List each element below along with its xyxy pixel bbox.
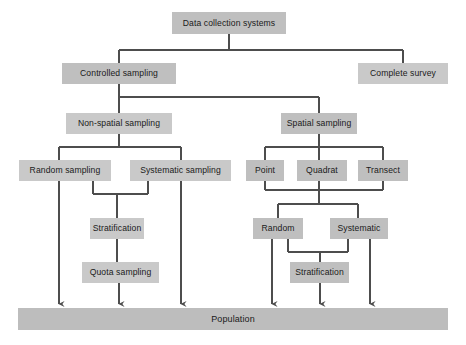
node-label: Random sampling <box>30 166 101 175</box>
node-data-collection-systems[interactable]: Data collection systems <box>172 12 286 34</box>
node-label: Complete survey <box>370 69 436 78</box>
node-label: Quadrat <box>306 166 338 175</box>
node-label: Stratification <box>93 224 142 233</box>
node-non-spatial-sampling[interactable]: Non-spatial sampling <box>66 113 172 134</box>
node-label: Quota sampling <box>90 268 152 277</box>
node-random[interactable]: Random <box>253 218 303 239</box>
node-stratification-right[interactable]: Stratification <box>290 262 349 283</box>
node-label: Spatial sampling <box>287 119 352 128</box>
node-label: Population <box>211 315 255 324</box>
flowchart-diagram: Data collection systems Controlled sampl… <box>0 0 466 345</box>
node-quota-sampling[interactable]: Quota sampling <box>82 262 159 283</box>
node-random-sampling[interactable]: Random sampling <box>19 160 111 181</box>
node-controlled-sampling[interactable]: Controlled sampling <box>62 63 176 84</box>
node-systematic[interactable]: Systematic <box>330 218 388 239</box>
node-label: Controlled sampling <box>80 69 158 78</box>
node-stratification-left[interactable]: Stratification <box>90 218 144 239</box>
node-label: Data collection systems <box>183 19 276 28</box>
node-population[interactable]: Population <box>18 308 448 330</box>
node-complete-survey[interactable]: Complete survey <box>358 63 448 84</box>
node-label: Random <box>261 224 294 233</box>
node-transect[interactable]: Transect <box>358 160 408 181</box>
node-label: Transect <box>366 166 400 175</box>
node-label: Systematic <box>337 224 380 233</box>
node-label: Stratification <box>295 268 344 277</box>
node-quadrat[interactable]: Quadrat <box>297 160 347 181</box>
node-label: Systematic sampling <box>140 166 221 175</box>
node-point[interactable]: Point <box>246 160 284 181</box>
node-label: Point <box>255 166 275 175</box>
node-label: Non-spatial sampling <box>78 119 160 128</box>
node-systematic-sampling[interactable]: Systematic sampling <box>130 160 231 181</box>
node-spatial-sampling[interactable]: Spatial sampling <box>281 113 357 134</box>
